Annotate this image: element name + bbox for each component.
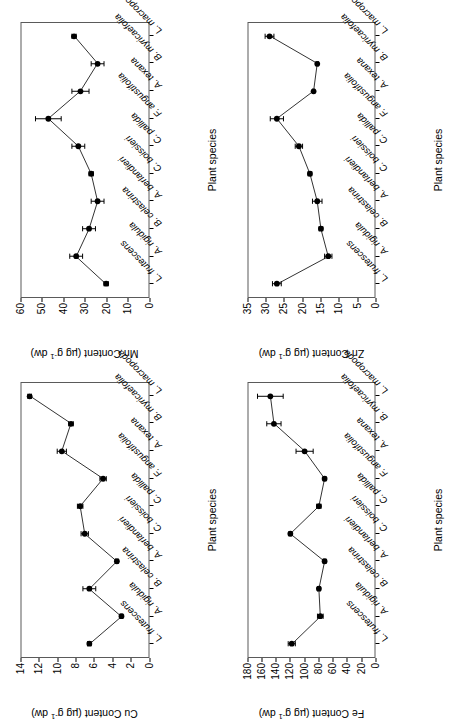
y-tick-label: 15	[315, 303, 325, 314]
data-point	[86, 641, 92, 647]
y-tick-label: 2	[125, 663, 135, 669]
x-tick-mark	[149, 173, 153, 174]
x-tick-mark	[375, 118, 379, 119]
data-point	[317, 226, 323, 232]
data-point	[86, 586, 92, 592]
x-tick-mark	[375, 533, 379, 534]
chart-panel-cu: Cu Content (µg g-1 dw)02468101214L. frut…	[0, 360, 227, 720]
x-tick-mark	[149, 643, 153, 644]
x-tick-mark	[375, 588, 379, 589]
y-tick-label: 30	[79, 303, 89, 314]
data-point	[81, 531, 87, 537]
y-tick-label: 10	[122, 303, 132, 314]
y-tick-mark	[375, 658, 376, 662]
x-tick-mark	[149, 505, 153, 506]
y-axis-label-zn: Zn Content (µg g-1 dw)	[211, 348, 411, 360]
y-axis-label-mn: Mn Content (µg g-1 dw)	[0, 348, 184, 360]
y-tick-mark	[127, 298, 128, 302]
data-point	[266, 33, 272, 39]
x-tick-mark	[375, 395, 379, 396]
y-tick-mark	[41, 298, 42, 302]
data-point	[270, 421, 276, 427]
y-tick-mark	[38, 658, 39, 662]
y-tick-mark	[247, 298, 248, 302]
data-point	[273, 281, 279, 287]
y-tick-mark	[63, 298, 64, 302]
x-tick-mark	[375, 145, 379, 146]
y-tick-label: 160	[256, 663, 266, 680]
x-tick-mark	[149, 256, 153, 257]
x-tick-mark	[375, 450, 379, 451]
y-tick-mark	[289, 658, 290, 662]
x-tick-mark	[149, 35, 153, 36]
x-tick-mark	[149, 588, 153, 589]
x-tick-mark	[375, 62, 379, 63]
data-point	[86, 226, 92, 232]
y-tick-mark	[304, 658, 305, 662]
y-tick-label: 20	[356, 663, 366, 674]
x-tick-mark	[149, 90, 153, 91]
x-tick-mark	[149, 145, 153, 146]
data-point	[324, 253, 330, 259]
plot-area-zn: Zn Content (µg g-1 dw)05101520253035L. f…	[247, 22, 376, 298]
y-tick-label: 10	[52, 663, 62, 674]
y-tick-label: 25	[278, 303, 288, 314]
plot-area-fe: Fe Content (µg g-1 dw)020406080100120140…	[247, 382, 376, 658]
markers-mn	[20, 22, 149, 298]
y-tick-mark	[302, 298, 303, 302]
chart-panel-fe: Fe Content (µg g-1 dw)020406080100120140…	[227, 360, 453, 720]
y-tick-mark	[361, 658, 362, 662]
y-tick-mark	[275, 658, 276, 662]
x-tick-mark	[149, 228, 153, 229]
data-point	[266, 393, 272, 399]
y-tick-mark	[247, 658, 248, 662]
data-point	[313, 198, 319, 204]
x-axis-title-zn: Plant species	[431, 129, 443, 191]
figure-root: Cu Content (µg g-1 dw)02468101214L. frut…	[0, 0, 453, 720]
y-tick-label: 5	[352, 303, 362, 309]
y-tick-mark	[20, 298, 21, 302]
x-tick-mark	[149, 200, 153, 201]
x-tick-mark	[149, 450, 153, 451]
y-tick-label: 80	[313, 663, 323, 674]
y-tick-label: 140	[270, 663, 280, 680]
y-tick-mark	[106, 298, 107, 302]
y-tick-mark	[149, 298, 150, 302]
x-tick-mark	[375, 173, 379, 174]
x-tick-mark	[375, 283, 379, 284]
panel-grid: Cu Content (µg g-1 dw)02468101214L. frut…	[0, 0, 453, 720]
data-point	[77, 88, 83, 94]
x-tick-mark	[149, 616, 153, 617]
y-tick-mark	[93, 658, 94, 662]
y-tick-label: 100	[299, 663, 309, 680]
x-tick-mark	[375, 505, 379, 506]
y-tick-mark	[283, 298, 284, 302]
y-axis-label-fe: Fe Content (µg g-1 dw)	[211, 708, 411, 720]
y-tick-mark	[112, 658, 113, 662]
y-tick-label: 30	[260, 303, 270, 314]
data-point	[94, 61, 100, 67]
x-tick-mark	[375, 228, 379, 229]
y-tick-label: 4	[107, 663, 117, 669]
y-tick-label: 40	[58, 303, 68, 314]
y-tick-label: 10	[333, 303, 343, 314]
data-point	[301, 448, 307, 454]
markers-fe	[247, 382, 376, 658]
y-tick-label: 35	[242, 303, 252, 314]
y-tick-mark	[357, 298, 358, 302]
x-tick-mark	[375, 90, 379, 91]
data-point	[26, 393, 32, 399]
y-tick-label: 120	[284, 663, 294, 680]
x-tick-mark	[149, 560, 153, 561]
y-tick-label: 12	[33, 663, 43, 674]
x-tick-mark	[375, 643, 379, 644]
plot-area-cu: Cu Content (µg g-1 dw)02468101214L. frut…	[20, 382, 149, 658]
y-tick-mark	[261, 658, 262, 662]
y-tick-label: 0	[370, 303, 380, 309]
plot-area-mn: Mn Content (µg g-1 dw)0102030405060L. fr…	[20, 22, 149, 298]
y-tick-label: 14	[15, 663, 25, 674]
x-tick-mark	[375, 616, 379, 617]
x-tick-mark	[375, 256, 379, 257]
y-tick-label: 60	[327, 663, 337, 674]
y-tick-mark	[338, 298, 339, 302]
